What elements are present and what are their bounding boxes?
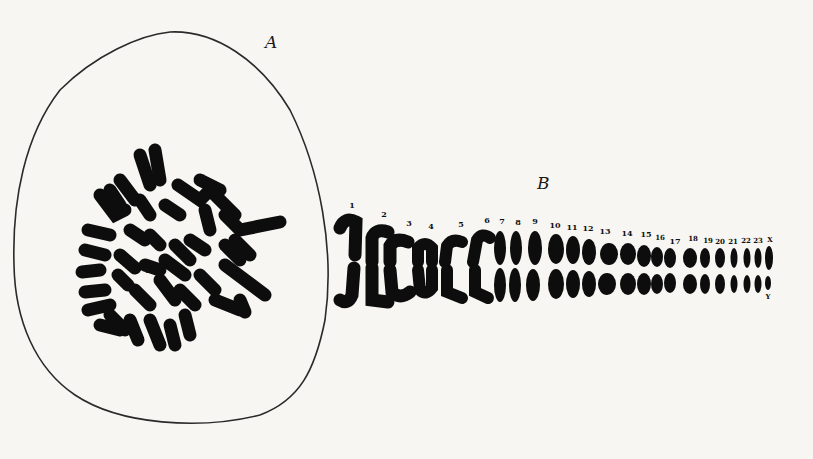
pair-label: 20 — [715, 237, 725, 246]
karyotype-figure: A Y B — [0, 0, 813, 459]
pair-label: 10 — [549, 220, 560, 230]
pair-label: 12 — [582, 223, 593, 233]
pair-label: 1 — [349, 200, 355, 210]
pair-label: 17 — [669, 236, 680, 246]
pair-label: 2 — [381, 209, 387, 219]
pair-label: 16 — [655, 233, 665, 242]
pair-label: 14 — [621, 228, 632, 238]
pair-label-y: Y — [766, 292, 771, 301]
pair-label: 5 — [458, 219, 464, 229]
pair-label: 13 — [599, 226, 610, 236]
pair-label: 6 — [484, 215, 490, 225]
pair-label: 15 — [640, 229, 651, 239]
pair-label: 8 — [515, 217, 521, 227]
pair-label: 22 — [741, 236, 751, 245]
pair-label: 21 — [728, 237, 738, 246]
pair-label: 7 — [499, 216, 505, 226]
pair-label: 3 — [406, 218, 412, 228]
pair-label: 4 — [428, 221, 434, 231]
pair-label: 11 — [566, 222, 577, 232]
pair-label-x: X — [767, 235, 772, 244]
pair-label: 19 — [703, 236, 713, 245]
pair-label: 18 — [688, 234, 698, 243]
pair-label: 23 — [753, 236, 763, 245]
panel-b-karyotype — [0, 0, 813, 459]
pair-label: 9 — [532, 216, 538, 226]
